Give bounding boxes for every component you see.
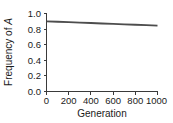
x-tick-label: 1000 xyxy=(146,95,167,106)
x-axis-title: Generation xyxy=(77,108,126,119)
x-tick-label: 600 xyxy=(105,95,121,106)
x-tick-labels: 0 200 400 600 800 1000 xyxy=(44,95,167,106)
x-tick-label: 0 xyxy=(44,95,49,106)
y-axis-title-main: Frequency of xyxy=(3,25,14,86)
chart-figure: 0.0 0.2 0.4 0.6 0.8 1.0 0 200 400 600 80… xyxy=(0,0,173,123)
x-tick-label: 200 xyxy=(61,95,77,106)
x-tick-label: 800 xyxy=(127,95,143,106)
y-tick-label: 0.2 xyxy=(28,70,41,81)
y-tick-label: 0.6 xyxy=(28,39,41,50)
y-axis-title-italic: A xyxy=(3,18,14,26)
line-chart: 0.0 0.2 0.4 0.6 0.8 1.0 0 200 400 600 80… xyxy=(0,0,173,123)
y-tick-label: 0.4 xyxy=(28,55,41,66)
svg-text:Frequency of A: Frequency of A xyxy=(3,18,14,86)
y-tick-label: 0.0 xyxy=(28,86,41,97)
y-axis-title: Frequency of A xyxy=(3,18,14,86)
x-tick-label: 400 xyxy=(83,95,99,106)
y-tick-label: 1.0 xyxy=(28,8,41,19)
y-tick-label: 0.8 xyxy=(28,24,41,35)
